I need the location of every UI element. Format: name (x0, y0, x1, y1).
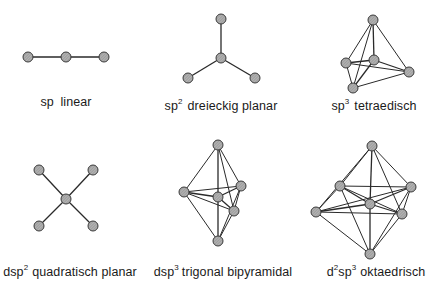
atom-left (179, 187, 189, 197)
atom-center (216, 53, 226, 63)
bond-bottom-left (316, 212, 370, 254)
atom-left (341, 58, 351, 68)
label-superscript: 2 (24, 263, 29, 272)
label-hybrid: d (327, 265, 334, 279)
bond-center-bottom-right (221, 58, 255, 78)
atom-center (61, 194, 71, 204)
label-d2sp3: d2sp3oktaedrisch (327, 264, 426, 279)
label-geometry: dreieckig planar (188, 99, 278, 113)
bond-center-right (370, 187, 411, 204)
bond-top-right (373, 20, 409, 72)
atom-bottom-right (88, 221, 98, 231)
hybridization-diagram (0, 0, 445, 292)
bond-left-right (346, 63, 409, 72)
bond-center-right (374, 60, 409, 72)
label-geometry: tetraedisch (354, 99, 416, 113)
atom-bottom (213, 236, 223, 246)
atom-top (367, 141, 377, 151)
label-hybrid: sp (40, 95, 53, 109)
label-superscript: 2 (334, 263, 339, 272)
atom-center (369, 55, 379, 65)
bond-center-top-left (39, 170, 66, 199)
label-superscript: 3 (174, 263, 179, 272)
atom-center (365, 199, 375, 209)
atom-top-right (88, 165, 98, 175)
label-dsp3: dsp3trigonal bipyramidal (154, 264, 292, 279)
bond-left-right (184, 186, 241, 192)
atom-top-left (34, 165, 44, 175)
label-hybrid: sp (331, 99, 344, 113)
molecule-dsp2 (34, 165, 98, 231)
atom-right (236, 181, 246, 191)
atom-center (213, 192, 223, 202)
bond-top-right (218, 145, 241, 186)
bond-top-right (372, 146, 411, 187)
label-hybrid: dsp (3, 265, 23, 279)
atom-upper-left (335, 181, 345, 191)
bond-top-lower-right (372, 146, 402, 214)
label-hybrid: sp (165, 99, 178, 113)
bond-top-left (184, 145, 218, 192)
bond-bottom-lower-right (370, 214, 402, 254)
atom-right (404, 67, 414, 77)
bond-bottom-left (184, 192, 218, 241)
atom-top (216, 14, 226, 24)
bond-center-top-right (66, 170, 93, 199)
bond-top-center (373, 20, 374, 60)
atom-bottom-right (250, 73, 260, 83)
label-superscript: 3 (352, 263, 357, 272)
molecule-sp (23, 52, 109, 62)
molecule-dsp3 (179, 140, 246, 246)
bond-top-center (370, 146, 372, 204)
label-hybrid-mid: sp (338, 265, 351, 279)
bond-bottom-upper-left (340, 186, 370, 254)
bond-center-bottom-left (39, 199, 66, 226)
atom-top (368, 15, 378, 25)
bond-left-lower-right (316, 212, 402, 214)
atom-bottom-left (183, 73, 193, 83)
label-geometry: trigonal bipyramidal (182, 265, 292, 279)
atom-lower-right (397, 209, 407, 219)
bond-top-left (346, 20, 373, 63)
label-superscript: 3 (345, 97, 350, 106)
bond-top-bottom (353, 20, 373, 88)
atom-left (311, 207, 321, 217)
atom-left (23, 52, 33, 62)
label-sp: sp linear (40, 95, 91, 109)
label-geometry: oktaedrisch (360, 265, 425, 279)
molecule-sp2 (183, 14, 260, 83)
label-sp3: sp3tetraedisch (331, 98, 416, 113)
label-geometry: linear (57, 95, 92, 109)
atom-bottom (348, 83, 358, 93)
bond-upper-left-right (340, 186, 411, 187)
bond-center-bottom-left (188, 58, 221, 78)
atom-lower-right (229, 206, 239, 216)
bond-center-bottom-right (66, 199, 93, 226)
atom-bottom (365, 249, 375, 259)
molecule-d2sp3 (311, 141, 416, 259)
atom-bottom-left (34, 221, 44, 231)
atom-right (99, 52, 109, 62)
label-sp2: sp2dreieckig planar (165, 98, 278, 113)
bond-left-lower-right (184, 192, 234, 211)
label-hybrid: dsp (154, 265, 174, 279)
atom-top (213, 140, 223, 150)
atom-center (61, 52, 71, 62)
bond-bottom-right (370, 187, 411, 254)
label-superscript: 2 (178, 97, 183, 106)
bond-bottom-right (353, 72, 409, 88)
bond-top-left (316, 146, 372, 212)
atom-right (406, 182, 416, 192)
molecule-sp3 (341, 15, 414, 93)
label-dsp2: dsp2quadratisch planar (3, 264, 137, 279)
label-geometry: quadratisch planar (32, 265, 137, 279)
